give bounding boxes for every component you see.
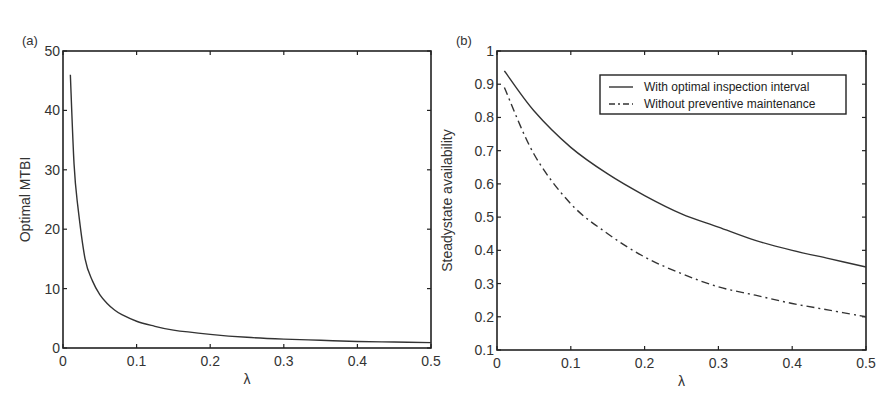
y-tick-label: 0.3 bbox=[475, 276, 495, 292]
axes-box bbox=[63, 51, 431, 348]
y-tick-label: 0.1 bbox=[475, 342, 495, 358]
panel-label: (b) bbox=[456, 33, 472, 48]
y-tick-label: 0.7 bbox=[475, 143, 495, 159]
y-tick-label: 20 bbox=[44, 221, 60, 237]
y-tick-label: 0.5 bbox=[475, 209, 495, 225]
x-tick-label: 0.2 bbox=[200, 353, 220, 369]
x-tick-label: 0.1 bbox=[127, 353, 147, 369]
y-axis-label: Optimal MTBI bbox=[17, 157, 33, 243]
y-tick-label: 0.8 bbox=[475, 109, 495, 125]
x-tick-label: 0.3 bbox=[709, 355, 729, 371]
y-tick-label: 1 bbox=[486, 43, 494, 59]
y-tick-label: 0.4 bbox=[475, 242, 495, 258]
x-axis-label: λ bbox=[678, 373, 685, 389]
y-tick-label: 0.9 bbox=[475, 76, 495, 92]
x-tick-label: 0.5 bbox=[856, 355, 876, 371]
x-tick-label: 0.2 bbox=[635, 355, 655, 371]
y-tick-label: 0.6 bbox=[475, 176, 495, 192]
x-axis-label: λ bbox=[244, 371, 251, 387]
figure: (a)00.10.20.30.40.501020304050λOptimal M… bbox=[0, 0, 895, 407]
y-tick-label: 40 bbox=[44, 102, 60, 118]
y-axis-label: Steadystate availability bbox=[439, 129, 455, 271]
legend-entry: With optimal inspection interval bbox=[644, 80, 809, 94]
y-tick-label: 0.2 bbox=[475, 309, 495, 325]
x-tick-label: 0.4 bbox=[348, 353, 368, 369]
y-tick-label: 0 bbox=[52, 340, 60, 356]
x-tick-label: 0.1 bbox=[561, 355, 581, 371]
x-tick-label: 0 bbox=[59, 353, 67, 369]
y-tick-label: 10 bbox=[44, 281, 60, 297]
x-tick-label: 0.5 bbox=[421, 353, 441, 369]
x-tick-label: 0 bbox=[493, 355, 501, 371]
series-line-1 bbox=[70, 75, 431, 343]
y-tick-label: 50 bbox=[44, 43, 60, 59]
panel-label: (a) bbox=[22, 33, 38, 48]
x-tick-label: 0.4 bbox=[782, 355, 802, 371]
legend-entry: Without preventive maintenance bbox=[644, 97, 816, 111]
series-line-2 bbox=[504, 88, 866, 317]
chart-panel-b: (b)00.10.20.30.40.50.10.20.30.40.50.60.7… bbox=[439, 33, 876, 389]
x-tick-label: 0.3 bbox=[274, 353, 294, 369]
chart-panel-a: (a)00.10.20.30.40.501020304050λOptimal M… bbox=[17, 33, 441, 387]
y-tick-label: 30 bbox=[44, 162, 60, 178]
legend: With optimal inspection intervalWithout … bbox=[600, 75, 846, 114]
